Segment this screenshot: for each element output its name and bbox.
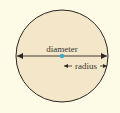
radius-label: radius <box>75 61 97 71</box>
diameter-label: diameter <box>46 44 77 54</box>
diagram-canvas: diameter radius <box>0 0 120 113</box>
center-point <box>60 54 64 58</box>
circle-diagram: diameter radius <box>0 0 120 113</box>
